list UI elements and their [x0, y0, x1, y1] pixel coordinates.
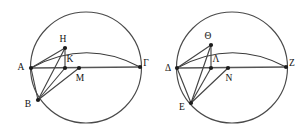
segment-A-G [31, 67, 140, 68]
segment-D-Z [177, 67, 286, 68]
right-arc-curve [177, 53, 286, 68]
point-label-G: Γ [143, 58, 149, 68]
vertex-dot-Th [209, 43, 213, 47]
vertex-dot-M [77, 66, 81, 70]
vertex-dot-D [175, 66, 179, 70]
point-label-E: E [179, 102, 185, 112]
point-label-B: B [25, 99, 31, 109]
right-circle-diagram: ΔEZΘΛN [165, 12, 295, 123]
vertex-dot-E [189, 101, 193, 105]
vertex-dot-H [63, 46, 67, 50]
left-segments-group [31, 48, 140, 100]
vertex-dot-K [63, 66, 67, 70]
point-label-D: Δ [165, 63, 171, 73]
geometry-canvas: ABΓHKM ΔEZΘΛN [0, 0, 302, 132]
point-label-Th: Θ [205, 31, 212, 41]
point-label-M: M [76, 73, 85, 83]
vertex-dot-G [138, 65, 142, 69]
geometry-figure: ABΓHKM ΔEZΘΛN [0, 0, 302, 132]
segment-B-A [31, 68, 38, 100]
vertex-dot-N [226, 66, 230, 70]
point-label-A: A [18, 62, 25, 72]
vertex-dot-B [36, 98, 40, 102]
vertex-dot-Z [284, 65, 288, 69]
left-arc-curve [31, 53, 140, 68]
vertex-dot-A [29, 66, 33, 70]
point-label-K: K [67, 54, 74, 64]
point-label-H: H [60, 34, 67, 44]
right-label-group: ΔEZΘΛN [165, 31, 295, 112]
point-label-L: Λ [213, 54, 220, 64]
left-circle-diagram: ABΓHKM [18, 12, 150, 123]
point-label-Z: Z [289, 58, 295, 68]
segment-B-M [38, 68, 79, 100]
vertex-dot-L [209, 66, 213, 70]
point-label-N: N [226, 73, 233, 83]
